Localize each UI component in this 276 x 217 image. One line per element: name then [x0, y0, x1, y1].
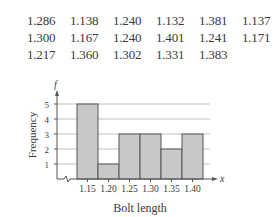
x-tick-label: 1.35 [163, 184, 180, 194]
x-tick-label: 1.25 [121, 184, 138, 194]
bars [77, 104, 203, 179]
y-axis-arrow-icon [55, 90, 59, 96]
x-tick-label: 1.15 [79, 184, 96, 194]
histogram-chart: x f 12345 1.151.201.251.301.351.40 Frequ… [0, 0, 276, 217]
x-tick-label: 1.20 [100, 184, 117, 194]
histogram-bar [161, 149, 182, 179]
y-axis-label: Frequency [26, 111, 38, 158]
y-tick-label: 3 [45, 130, 50, 140]
y-tick-label: 4 [45, 115, 50, 125]
x-axis-label: Bolt length [113, 201, 167, 215]
y-tick-label: 1 [45, 160, 50, 170]
x-ticks: 1.151.201.251.301.351.40 [79, 179, 201, 194]
histogram-bar [140, 134, 161, 179]
histogram-bar [77, 104, 98, 179]
histogram-bar [119, 134, 140, 179]
axis-break-icon [64, 176, 70, 182]
x-tick-label: 1.40 [184, 184, 201, 194]
histogram-bar [182, 134, 203, 179]
y-tick-label: 5 [45, 100, 50, 110]
y-tick-label: 2 [45, 145, 50, 155]
histogram-bar [98, 164, 119, 179]
x-axis-arrow-icon [212, 177, 218, 181]
x-axis-symbol: x [219, 173, 225, 184]
x-tick-label: 1.30 [142, 184, 159, 194]
y-ticks: 12345 [45, 100, 58, 170]
y-axis-symbol: f [54, 79, 58, 90]
